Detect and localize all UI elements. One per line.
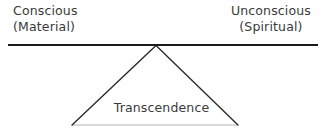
right-pole-label-primary: Unconscious xyxy=(231,3,311,19)
fulcrum-label-text: Transcendence xyxy=(114,100,210,115)
fulcrum-label: Transcendence xyxy=(0,100,325,115)
right-pole-label: Unconscious (Spiritual) xyxy=(231,3,311,35)
diagram-canvas: Conscious (Material) Unconscious (Spirit… xyxy=(0,0,325,134)
right-pole-label-secondary: (Spiritual) xyxy=(231,19,311,35)
left-pole-label: Conscious (Material) xyxy=(13,3,78,35)
left-pole-label-primary: Conscious xyxy=(13,3,78,19)
left-pole-label-secondary: (Material) xyxy=(13,19,78,35)
